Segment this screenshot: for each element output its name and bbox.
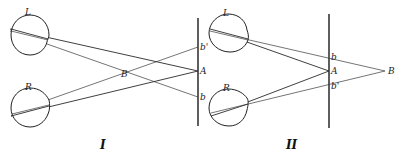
label-r-1: R bbox=[24, 82, 32, 92]
label-l-2: L bbox=[222, 8, 229, 18]
label-b-external-2: B bbox=[387, 66, 395, 76]
panel-label-2: II bbox=[285, 138, 298, 152]
label-l-1: L bbox=[24, 7, 31, 17]
label-b-prime-2: b' bbox=[331, 81, 339, 91]
label-b-intersection-1: B bbox=[120, 69, 128, 79]
label-b-2: b bbox=[331, 52, 337, 62]
panel-label-1: I bbox=[99, 138, 106, 152]
label-a-2: A bbox=[330, 66, 338, 76]
label-b-1: b bbox=[200, 92, 206, 102]
label-b-prime-1: b' bbox=[200, 42, 208, 52]
panel-2: L R b A b' B II bbox=[209, 8, 395, 152]
right-eye-2 bbox=[209, 89, 248, 126]
left-eye-2 bbox=[209, 14, 248, 52]
left-eye-1 bbox=[11, 15, 49, 55]
binocular-diagram: L R B b' A b I L R b A b' B II bbox=[0, 0, 401, 153]
panel-1: L R B b' A b I bbox=[10, 7, 208, 152]
label-r-2: R bbox=[222, 83, 230, 93]
label-a-1: A bbox=[199, 66, 207, 76]
